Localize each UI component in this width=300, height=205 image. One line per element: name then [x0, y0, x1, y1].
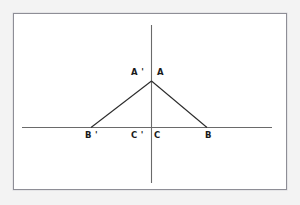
- point-label-a: A: [157, 67, 164, 77]
- point-label-b-prime: B ': [85, 130, 98, 140]
- triangle-right-leg: [152, 81, 208, 128]
- figure-canvas: [0, 0, 300, 205]
- point-label-b: B: [205, 130, 212, 140]
- point-label-c-prime: C ': [131, 130, 144, 140]
- point-label-c: C: [154, 130, 161, 140]
- axes-group: [22, 25, 272, 183]
- triangle-left-leg: [91, 81, 152, 128]
- point-label-a-prime: A ': [131, 67, 144, 77]
- triangle-group: [91, 81, 207, 128]
- figure-root: A ' A B ' C ' C B: [0, 0, 300, 205]
